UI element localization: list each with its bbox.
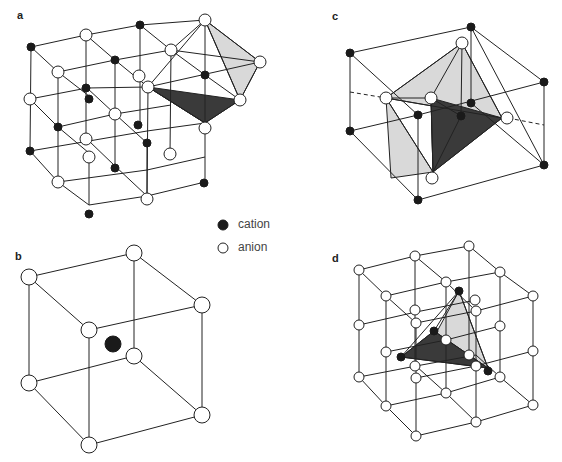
dark-tetra-face [148,87,240,123]
crystal-structures-figure [0,0,562,462]
panel-a-lattice [24,14,266,218]
light-octa-face [205,20,260,100]
central-cation [105,336,121,352]
panel-b-cube [21,245,210,453]
legend-anion-label: anion [238,240,267,254]
legend [218,220,228,253]
anion-legend-icon [218,243,228,253]
panel-d-lattice [354,241,538,441]
legend-cation-label: cation [238,217,270,231]
cation-legend-icon [218,220,228,230]
panel-c-cell [346,23,548,204]
